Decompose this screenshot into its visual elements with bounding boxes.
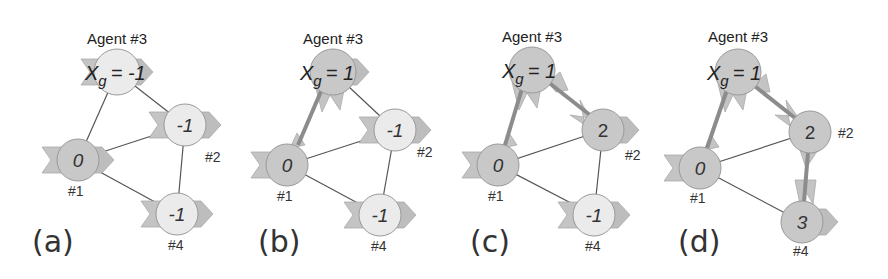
node-value: -1 (586, 205, 603, 226)
active-edge-3-2 (548, 82, 590, 115)
agent-title: Agent #3 (87, 30, 147, 47)
panel-label: (d) (678, 224, 720, 259)
node-value: -1 (177, 115, 194, 136)
node-1: 0 (251, 144, 308, 186)
node-id-label: #1 (277, 188, 293, 204)
node-2: 2 (582, 109, 639, 151)
agent-title: Agent #3 (708, 28, 768, 45)
node-id-label: #1 (68, 183, 84, 199)
node-1: 0 (42, 139, 114, 181)
node-id-label: #1 (488, 188, 504, 204)
node-4: -1 (558, 194, 630, 236)
panel-label: (c) (470, 224, 510, 259)
node-value: -1 (372, 205, 389, 226)
node-value: 0 (493, 155, 504, 176)
edges (78, 72, 185, 214)
node-id-label: #2 (625, 147, 641, 163)
node-id-label: #4 (585, 238, 601, 254)
panel-a: Agent #3 Xg= -1 -1 #2 0 #1 -1 #4 (a) (32, 30, 221, 259)
node-4: -1 (344, 194, 416, 236)
node-id-label: #4 (793, 243, 809, 259)
active-edge-3-2 (752, 84, 795, 118)
node-value: 3 (797, 212, 808, 233)
node-id-label: #4 (371, 238, 387, 254)
node-id-label: #2 (205, 149, 221, 165)
node-value: 0 (73, 150, 84, 171)
node-id-label: #4 (168, 237, 184, 253)
panel-label: (b) (258, 224, 300, 259)
node-4: 3 (781, 201, 838, 243)
agent-title: Agent #3 (502, 28, 562, 45)
panel-b: Agent #3 Xg= 1 -1 #2 0 #1 -1 #4 (b) (251, 30, 433, 259)
node-value: 0 (282, 155, 293, 176)
agent-title: Agent #3 (303, 30, 363, 47)
node-4: -1 (141, 193, 213, 235)
node-value: -1 (169, 204, 186, 225)
node-id-label: #1 (690, 190, 706, 206)
node-value: 2 (805, 122, 816, 143)
node-id-label: #2 (417, 144, 433, 160)
panel-c: Agent #3 Xg= 1 2 #2 0 #1 -1 #4 (c) (462, 28, 641, 259)
node-value: 0 (695, 158, 706, 179)
diagram-canvas: Agent #3 Xg= -1 -1 #2 0 #1 -1 #4 (a) (0, 0, 888, 279)
node-value: -1 (387, 120, 404, 141)
panel-d: Agent #3 Xg= 1 2 #2 0 #1 3 #4 (d) (664, 28, 854, 259)
node-id-label: #2 (838, 125, 854, 141)
active-edge-1-3 (707, 84, 729, 148)
node-value: 2 (598, 120, 609, 141)
panel-label: (a) (32, 224, 74, 259)
node-2: 2 (789, 111, 831, 153)
node-2: -1 (149, 104, 221, 146)
node-1: 0 (462, 144, 519, 186)
node-1: 0 (664, 147, 721, 189)
